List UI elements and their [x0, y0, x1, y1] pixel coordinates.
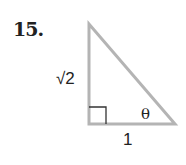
triangle	[89, 24, 175, 124]
vertical-leg-label: √2	[56, 69, 75, 88]
angle-label: θ	[141, 105, 150, 123]
right-triangle-figure: √2 θ 1	[0, 0, 186, 165]
horizontal-leg-label: 1	[123, 130, 132, 149]
right-angle-marker	[89, 107, 106, 124]
